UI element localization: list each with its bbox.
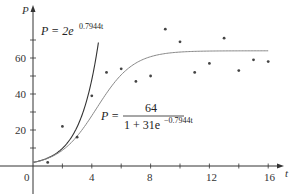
log-eq-denominator: 1 + 31e <box>124 118 160 132</box>
y-tick-label-20: 20 <box>15 124 27 136</box>
data-point <box>46 161 49 164</box>
data-point <box>237 69 240 72</box>
data-point <box>179 40 182 43</box>
log-eq-lhs: P = <box>100 109 119 123</box>
x-tick-label-8: 8 <box>147 171 153 183</box>
exp-eq-exponent: 0.7944t <box>79 22 104 31</box>
data-point <box>135 80 138 83</box>
exp-eq-lhs: P = 2e <box>40 24 74 38</box>
chart: P t 0 4 8 12 16 20 40 60 P = 2e 0.7944t … <box>0 0 298 196</box>
data-point <box>120 67 123 70</box>
data-points <box>46 28 269 164</box>
x-axis-arrow-icon <box>277 164 284 169</box>
data-point <box>208 62 211 65</box>
x-tick-label-16: 16 <box>264 171 276 183</box>
data-point <box>223 37 226 40</box>
log-eq-numerator: 64 <box>145 101 157 115</box>
data-point <box>61 125 64 128</box>
data-point <box>164 28 167 31</box>
data-point <box>267 60 270 63</box>
exponential-curve <box>33 43 98 163</box>
data-point <box>90 94 93 97</box>
exponential-equation: P = 2e 0.7944t <box>40 22 104 38</box>
data-point <box>149 75 152 78</box>
data-point <box>105 71 108 74</box>
x-axis-title: t <box>285 167 289 179</box>
data-point <box>252 58 255 61</box>
y-tick-label-40: 40 <box>15 88 27 100</box>
y-axis-arrow-icon <box>31 5 36 12</box>
logistic-equation: P = 64 1 + 31e −0.7944t <box>100 101 194 132</box>
y-tick-label-60: 60 <box>15 52 27 64</box>
origin-label: 0 <box>24 171 30 183</box>
y-axis-title: P <box>21 4 29 16</box>
log-eq-den-exponent: −0.7944t <box>164 116 194 125</box>
x-tick-label-12: 12 <box>206 171 217 183</box>
x-tick-label-4: 4 <box>89 171 95 183</box>
data-point <box>76 136 79 139</box>
data-point <box>193 71 196 74</box>
